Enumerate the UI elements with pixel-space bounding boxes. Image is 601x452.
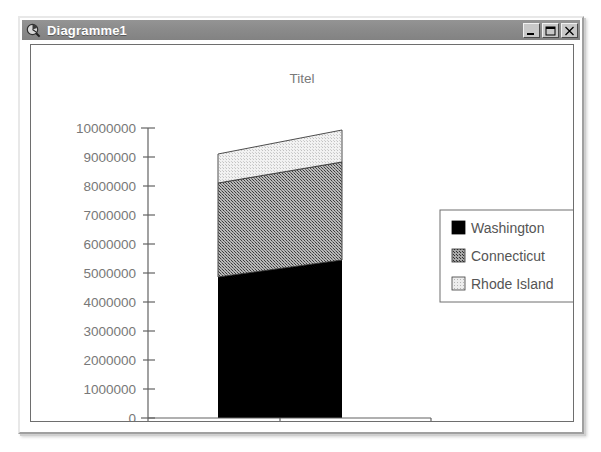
chart-plot-container: Titel <box>30 44 574 422</box>
window-titlebar[interactable]: Diagramme1 <box>22 20 580 40</box>
maximize-button[interactable] <box>542 23 559 38</box>
legend-label-rhode-island: Rhode Island <box>471 276 554 292</box>
legend-swatch-washington <box>452 221 465 234</box>
y-axis: 10000000 9000000 8000000 7000000 6000000… <box>76 121 155 421</box>
window-title: Diagramme1 <box>47 23 127 38</box>
screenshot-root: Diagramme1 <box>0 0 601 452</box>
y-tick-label: 2000000 <box>83 353 136 368</box>
chart-window: Diagramme1 <box>18 16 584 434</box>
y-tick-label: 6000000 <box>83 237 136 252</box>
y-tick-label: 1000000 <box>83 382 136 397</box>
legend-label-washington: Washington <box>471 220 544 236</box>
area-chart: Titel <box>31 45 573 421</box>
y-tick-label: 8000000 <box>83 179 136 194</box>
legend-swatch-rhode-island <box>452 277 465 290</box>
series-washington <box>218 260 342 418</box>
chart-title: Titel <box>289 71 314 86</box>
minimize-button[interactable] <box>523 23 540 38</box>
y-tick-label: 9000000 <box>83 150 136 165</box>
y-tick-label: 7000000 <box>83 208 136 223</box>
y-tick-label: 3000000 <box>83 324 136 339</box>
legend-swatch-connecticut <box>452 249 465 262</box>
y-tick-label: 0 <box>128 411 136 421</box>
x-axis: Pop1990 Pop1996 <box>148 418 431 421</box>
y-tick-label: 10000000 <box>76 121 136 136</box>
y-tick-label: 5000000 <box>83 266 136 281</box>
window-controls <box>523 23 578 38</box>
close-button[interactable] <box>561 23 578 38</box>
chart-app-icon <box>26 23 41 38</box>
legend-label-connecticut: Connecticut <box>471 248 545 264</box>
chart-legend: Washington Connecticut Rhode Island <box>440 210 573 302</box>
y-tick-label: 4000000 <box>83 295 136 310</box>
